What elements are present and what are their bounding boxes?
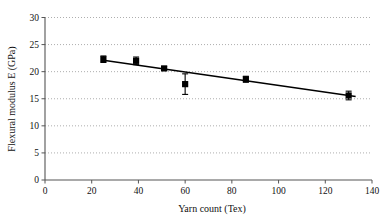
y-tick-label-30: 30 [30,13,40,23]
y-tick-label-20: 20 [30,67,40,77]
y-tick-label-15: 15 [30,94,40,104]
x-tick-label-120: 120 [318,186,333,196]
data-point-marker [346,92,352,98]
flexural-modulus-scatter-chart: 051015202530 020406080100120140 Flexural… [0,0,382,220]
x-tick-label-80: 80 [227,186,237,196]
x-tick-label-40: 40 [134,186,144,196]
x-tick-label-140: 140 [365,186,380,196]
data-point-marker [133,58,139,64]
data-point-marker [161,65,167,71]
data-point-marker [100,56,106,62]
data-point-marker [243,76,249,82]
y-tick-label-10: 10 [30,121,40,131]
chart-container: 051015202530 020406080100120140 Flexural… [0,0,382,220]
y-tick-label-25: 25 [30,40,40,50]
y-axis-title: Flexural modulus E (GPa) [6,46,18,151]
x-axis-title: Yarn count (Tex) [178,203,246,215]
x-tick-label-100: 100 [271,186,286,196]
x-tick-label-20: 20 [87,186,97,196]
y-tick-label-0: 0 [34,175,39,185]
x-tick-label-60: 60 [180,186,190,196]
data-point-marker [182,81,188,87]
x-tick-label-0: 0 [43,186,48,196]
y-tick-label-5: 5 [34,148,39,158]
